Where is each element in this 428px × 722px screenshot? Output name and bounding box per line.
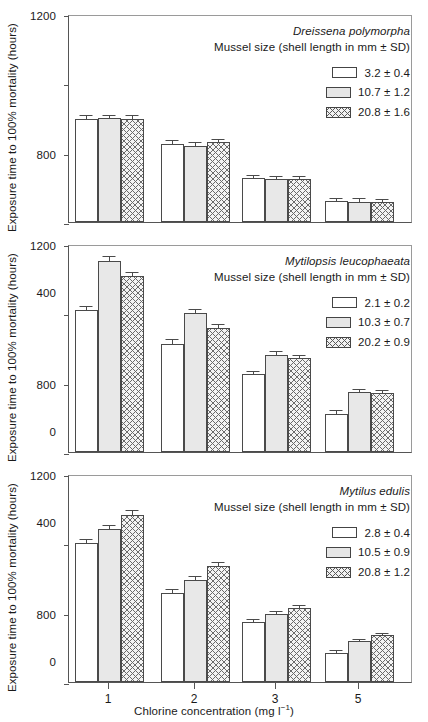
bar-group-3 <box>242 355 311 452</box>
bar <box>98 118 121 222</box>
bar <box>325 201 348 222</box>
error-bar <box>166 339 179 343</box>
error-bar <box>330 650 343 652</box>
error-bar <box>293 355 306 358</box>
error-bar-cap <box>189 576 202 577</box>
error-bar-cap <box>293 605 306 606</box>
error-bar <box>103 256 116 261</box>
legend-item: 10.7 ± 1.2 <box>326 84 410 100</box>
x-axis-tick <box>275 683 276 689</box>
species-name: Mytilus edulis <box>214 483 410 499</box>
bar <box>121 515 144 682</box>
legend-item-label: 10.3 ± 0.7 <box>358 314 410 330</box>
error-bar-cap <box>353 198 366 199</box>
error-bar-cap <box>330 410 343 411</box>
bar-group-3 <box>242 608 311 682</box>
y-axis-tick-label: 800 <box>37 150 57 162</box>
error-bar <box>166 140 179 144</box>
legend-item-label: 2.8 ± 0.4 <box>364 525 410 541</box>
y-axis-tick: 1200 <box>64 16 69 17</box>
bar <box>325 653 348 682</box>
bar <box>288 179 311 222</box>
y-axis-tick-label: 1200 <box>30 11 56 23</box>
y-axis-title: Exposure time to 100% mortality (hours) <box>6 23 18 232</box>
chart-panel-mytilopsis-leucophaeata: Exposure time to 100% mortality (hours) … <box>0 240 428 470</box>
legend-item: 10.3 ± 0.7 <box>326 314 410 330</box>
error-bar-cap <box>80 306 93 307</box>
legend-item: 3.2 ± 0.4 <box>332 65 410 81</box>
y-axis-title: Exposure time to 100% mortality (hours) <box>6 253 18 462</box>
bar-chart-figure: Exposure time to 100% mortality (hours) … <box>0 0 428 722</box>
legend-swatch-hatch <box>326 337 351 348</box>
y-axis-tick: 1200 <box>64 246 69 247</box>
bar <box>288 358 311 452</box>
error-bar-cap <box>353 389 366 390</box>
legend-item-label: 2.1 ± 0.2 <box>364 295 410 311</box>
bar-group-1 <box>75 118 144 222</box>
error-bar <box>376 199 389 202</box>
error-bar <box>270 351 283 355</box>
bar <box>207 566 230 682</box>
legend-item: 20.8 ± 1.2 <box>326 564 410 580</box>
error-bar-cap <box>103 525 116 526</box>
bar <box>371 393 394 452</box>
y-axis-tick: 0 <box>64 684 69 685</box>
legend: Mytilopsis leucophaeata Mussel size (she… <box>214 253 410 351</box>
bar <box>121 276 144 452</box>
y-axis-tick-label: 800 <box>37 610 57 622</box>
legend-item: 10.5 ± 0.9 <box>326 544 410 560</box>
bar <box>184 313 207 452</box>
error-bar <box>166 589 179 592</box>
bar <box>242 622 265 682</box>
bar-group-5 <box>325 635 394 682</box>
bar <box>242 374 265 452</box>
error-bar-cap <box>166 589 179 590</box>
bar <box>75 119 98 222</box>
legend-rows: 2.8 ± 0.410.5 ± 0.920.8 ± 1.2 <box>214 525 410 581</box>
legend-item-label: 10.7 ± 1.2 <box>358 84 410 100</box>
bar <box>348 392 371 452</box>
error-bar <box>247 619 260 622</box>
error-bar-cap <box>126 272 139 273</box>
error-bar <box>330 198 343 201</box>
bar <box>98 261 121 452</box>
legend-item: 2.1 ± 0.2 <box>332 295 410 311</box>
error-bar <box>189 142 202 145</box>
error-bar <box>189 576 202 579</box>
y-axis-tick-label: 1200 <box>30 471 56 483</box>
bar <box>184 580 207 682</box>
bar <box>161 144 184 222</box>
x-axis-tick <box>108 683 109 689</box>
legend-swatch-white <box>332 527 357 538</box>
legend-swatch-hatch <box>326 567 351 578</box>
legend: Dreissena polymorpha Mussel size (shell … <box>214 23 410 121</box>
error-bar <box>126 272 139 276</box>
error-bar-cap <box>80 115 93 116</box>
error-bar-cap <box>376 390 389 391</box>
y-axis-tick: 800 <box>64 545 69 546</box>
bar-group-5 <box>325 201 394 222</box>
error-bar-cap <box>270 351 283 352</box>
error-bar <box>376 390 389 393</box>
error-bar-cap <box>247 371 260 372</box>
error-bar-cap <box>376 199 389 200</box>
y-axis-tick: 400 <box>64 615 69 616</box>
legend-item-label: 10.5 ± 0.9 <box>358 544 410 560</box>
bar <box>184 146 207 222</box>
error-bar <box>376 633 389 636</box>
bar <box>288 608 311 682</box>
legend-item-label: 20.2 ± 0.9 <box>358 334 410 350</box>
x-axis-title: Chlorine concentration (mg l−1) <box>0 703 428 717</box>
chart-panel-mytilus-edulis: Exposure time to 100% mortality (hours) … <box>0 470 428 722</box>
error-bar-cap <box>103 256 116 257</box>
y-axis-tick: 1200 <box>64 476 69 477</box>
error-bar-cap <box>212 139 225 140</box>
bar <box>242 178 265 222</box>
error-bar-cap <box>166 339 179 340</box>
chart-panel-dreissena-polymorpha: Exposure time to 100% mortality (hours) … <box>0 0 428 240</box>
bar <box>121 119 144 222</box>
bar <box>265 355 288 452</box>
bar-group-5 <box>325 392 394 452</box>
x-axis-title-close: ) <box>290 705 294 717</box>
bar <box>348 641 371 682</box>
